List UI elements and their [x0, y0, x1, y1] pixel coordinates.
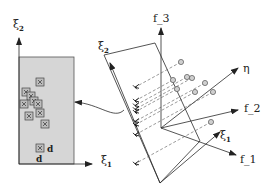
marker-box	[36, 78, 44, 86]
marker-box	[25, 112, 33, 120]
right-panel: ξ2 f_3 η f_2 ξ1 f_1	[98, 12, 261, 183]
label-f1: f_1	[240, 153, 257, 166]
projected-point-marker	[133, 161, 139, 166]
marker-box	[41, 120, 49, 128]
connector-arrow	[75, 102, 124, 113]
projection-line	[135, 80, 173, 101]
label-eta: η	[243, 62, 250, 75]
projected-point-marker	[133, 84, 139, 89]
projected-point-marker	[133, 98, 139, 103]
label-f3: f_3	[153, 12, 170, 25]
projection-line	[135, 62, 181, 87]
projection-line	[135, 89, 177, 112]
projected-point-marker	[133, 132, 139, 137]
axis-label-xi1: ξ1	[101, 154, 112, 169]
marker-box	[34, 100, 42, 108]
plane-axis-xi1	[160, 132, 220, 183]
data-point	[202, 80, 207, 85]
data-point	[210, 89, 215, 94]
marker-box	[20, 100, 28, 108]
data-point	[184, 74, 189, 79]
data-point	[178, 59, 183, 64]
data-point	[189, 75, 194, 80]
diagram-canvas: ξ2 ξ1 d d ξ2 f_3 η f_2 ξ1 f_1	[0, 0, 275, 189]
plane-label-xi2: ξ2	[98, 40, 109, 55]
data-point	[170, 77, 175, 82]
label-f2: f_2	[244, 102, 261, 115]
marker-box	[36, 144, 44, 152]
marker-box	[36, 109, 44, 117]
plane-axis-xi2	[110, 63, 160, 183]
label-xi1-right: ξ1	[220, 129, 231, 144]
projection-line	[135, 122, 211, 164]
axis-label-xi2: ξ2	[13, 18, 24, 33]
projection-line	[135, 92, 213, 135]
marker-label-d-below: d	[36, 154, 43, 164]
data-point	[208, 119, 213, 124]
data-point	[192, 89, 197, 94]
marker-label-d-right: d	[47, 144, 54, 154]
data-point	[174, 86, 179, 91]
